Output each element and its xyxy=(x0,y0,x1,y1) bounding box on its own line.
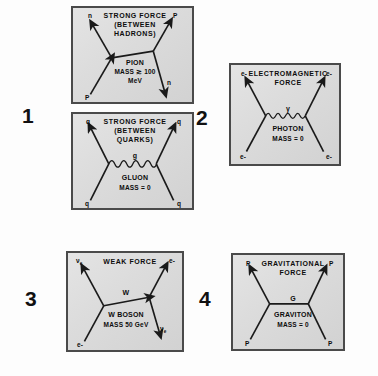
panel-electromagnetic-force: ELECTROMAGNETIC FORCE e- e- e- e- γ PHOT… xyxy=(229,63,341,166)
gluon-coil-propagator xyxy=(109,161,157,168)
panel-title-line1: WEAK FORCE xyxy=(103,258,156,266)
particle-in-left: P xyxy=(85,94,90,101)
panel-title-line1: GRAVITATIONAL xyxy=(261,260,324,268)
group-numeral-3: 3 xyxy=(25,288,37,309)
panel-title-line1: ELECTROMAGNETIC xyxy=(248,70,327,78)
panel-strong-force-quarks: STRONG FORCE (BETWEEN QUARKS) q q q q g … xyxy=(71,112,194,210)
particle-in-right: νe xyxy=(160,325,167,334)
panel-weak-force: WEAK FORCE νe e- e- νe W W BOSON MASS 50… xyxy=(66,251,184,352)
panel-title-line2: FORCE xyxy=(279,269,306,277)
panel-title-line3: HADRONS) xyxy=(114,30,156,38)
panel-title-line1: STRONG FORCE xyxy=(104,12,167,20)
particle-in-right: e- xyxy=(326,153,332,160)
mediator-mass: MASS ≳ 100 xyxy=(114,68,155,75)
feynman-diagram-figure: 1 STRONG FORCE (BETWEEN HADRONS) n P P n… xyxy=(0,0,378,376)
propagator-symbol: G xyxy=(290,295,296,303)
mediator-name: PHOTON xyxy=(272,125,303,133)
particle-in-left: e- xyxy=(240,153,246,160)
particle-out-left: q xyxy=(86,118,90,125)
mediator-name: GLUON xyxy=(122,174,148,182)
particle-in-left: e- xyxy=(77,341,83,348)
particle-in-left: q xyxy=(85,200,89,207)
panel-title-line2: (BETWEEN xyxy=(114,127,156,135)
particle-out-right: P xyxy=(173,12,178,19)
propagator-symbol: W xyxy=(123,289,130,297)
mediator-mass: MASS 50 GeV xyxy=(104,321,149,328)
group-numeral-4: 4 xyxy=(199,288,211,309)
particle-out-left: P xyxy=(246,260,251,267)
particle-out-left: e- xyxy=(241,70,247,77)
particle-out-left: νe xyxy=(76,257,83,266)
mediator-name: GRAVITON xyxy=(274,311,312,319)
panel-gravitational-force: GRAVITATIONAL FORCE P P P P G GRAVITON M… xyxy=(231,253,345,351)
mediator-mass: MASS = 0 xyxy=(277,321,308,328)
group-numeral-1: 1 xyxy=(22,105,34,126)
mediator-mass: MASS = 0 xyxy=(119,184,150,191)
propagator-symbol: g xyxy=(133,152,137,160)
mediator-name: PION xyxy=(126,59,144,67)
particle-out-right: q xyxy=(177,118,181,125)
particle-in-right: n xyxy=(167,79,171,86)
group-numeral-2: 2 xyxy=(196,107,208,128)
panel-strong-force-hadrons: STRONG FORCE (BETWEEN HADRONS) n P P n P… xyxy=(71,6,194,104)
particle-in-left: P xyxy=(245,340,250,347)
particle-out-left: n xyxy=(88,12,92,19)
diagram-lines-weak xyxy=(68,253,182,350)
particle-out-right: P xyxy=(329,260,334,267)
particle-in-right: q xyxy=(177,200,181,207)
mediator-name: W BOSON xyxy=(108,311,144,319)
propagator-symbol: γ xyxy=(286,105,290,113)
mediator-mass: MASS = 0 xyxy=(272,135,303,142)
panel-title-line2: FORCE xyxy=(274,79,301,87)
particle-in-right: P xyxy=(328,340,333,347)
panel-title-line2: (BETWEEN xyxy=(114,21,156,29)
panel-title-line1: STRONG FORCE xyxy=(104,118,167,126)
particle-out-right: e- xyxy=(169,257,175,264)
panel-title-line3: QUARKS) xyxy=(117,136,154,144)
particle-out-right: e- xyxy=(326,70,332,77)
mediator-mass-unit: MeV xyxy=(128,77,142,84)
photon-wavy-propagator xyxy=(266,113,305,118)
